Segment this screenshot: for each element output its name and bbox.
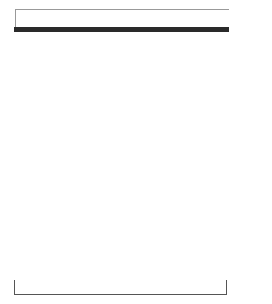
chart-top-row <box>15 9 229 27</box>
repeat-bracket <box>14 280 227 295</box>
knitting-chart <box>15 9 229 32</box>
chart-grid <box>14 27 229 32</box>
